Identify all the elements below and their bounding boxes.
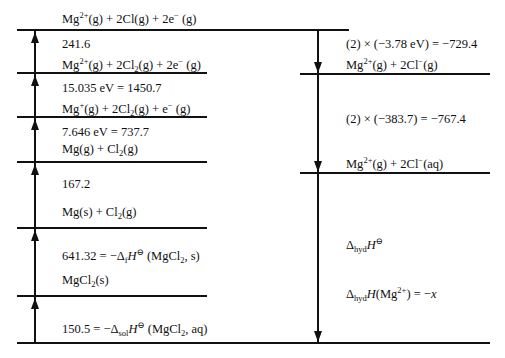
arrow-up-icon	[31, 298, 39, 309]
arrow-up-icon	[31, 164, 39, 175]
species-label-r1: Mg2+(g) + 2Cl−(g)	[346, 54, 438, 72]
step-value-electron-affinity: (2) × (−3.78 eV) = −729.4	[346, 37, 477, 51]
arrow-down-icon	[314, 62, 322, 73]
step-value-sublimation: 167.2	[62, 177, 90, 191]
level-line-left-5	[17, 295, 207, 297]
species-label-l2: Mg+(g) + 2Cl2(g) + e− (g)	[62, 98, 190, 120]
species-label-l3: Mg(g) + Cl2(g)	[62, 142, 138, 160]
arrow-up-icon	[31, 230, 39, 241]
step-value-cl-hydration: (2) × (−383.7) = −767.4	[346, 112, 466, 126]
level-line-left-3	[17, 161, 207, 163]
step-value-formation: 641.32 = −ΔfH⊖ (MgCl2, s)	[62, 245, 200, 267]
step-value-mg-hydration: ΔhydH(Mg2+) = −x	[346, 283, 436, 305]
arrow-down-icon	[314, 331, 322, 342]
level-line-right-1	[300, 73, 490, 75]
arrow-down-icon	[314, 161, 322, 172]
step-value-second-ionization: 15.035 eV = 1450.7	[62, 81, 162, 95]
species-label-r2: Mg2+(g) + 2Cl−(aq)	[346, 153, 443, 171]
step-value-solution: 150.5 = −ΔsolH⊖ (MgCl2, aq)	[62, 318, 208, 340]
arrow-up-icon	[31, 119, 39, 130]
level-line-right-2	[300, 172, 490, 174]
step-value-hydration-enthalpy: ΔhydH⊖	[346, 234, 383, 256]
top-species-label: Mg2+(g) + 2Cl(g) + 2e− (g)	[62, 8, 197, 26]
species-label-l1: Mg2+(g) + 2Cl2(g) + 2e− (g)	[62, 54, 201, 76]
level-line-left-4	[17, 227, 207, 229]
level-line-top	[17, 29, 349, 31]
arrow-up-icon	[31, 32, 39, 43]
step-value-atomization-cl: 241.6	[62, 37, 90, 51]
arrow-up-icon	[31, 75, 39, 86]
level-line-bottom	[17, 342, 490, 344]
species-label-l5: MgCl2(s)	[62, 273, 109, 291]
right-arrow-shaft	[317, 30, 319, 343]
species-label-l4: Mg(s) + Cl2(g)	[62, 205, 137, 223]
step-value-first-ionization: 7.646 eV = 737.7	[62, 125, 149, 139]
